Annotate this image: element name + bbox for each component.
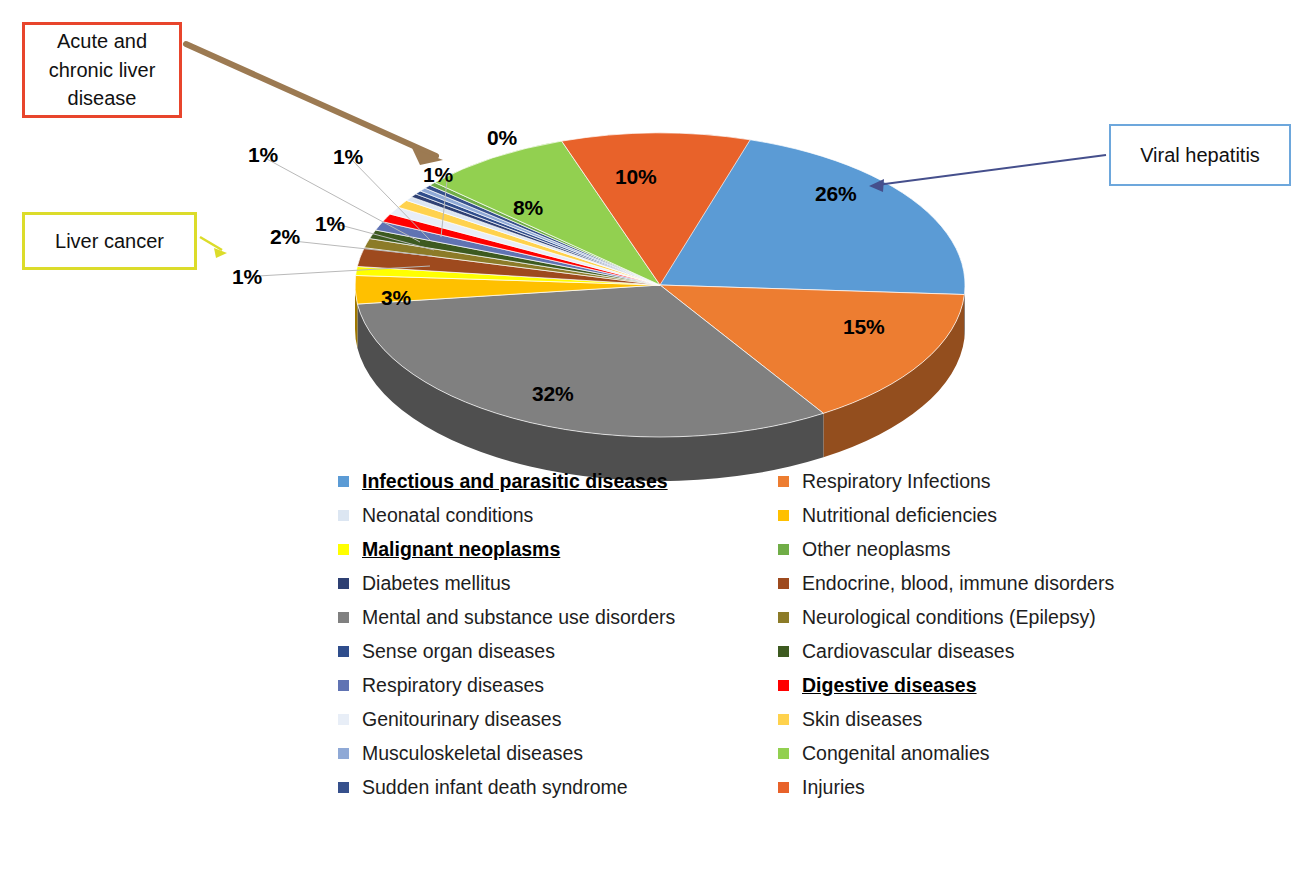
legend-swatch-icon bbox=[338, 578, 349, 589]
legend-item[interactable]: Sudden infant death syndrome bbox=[338, 770, 778, 804]
pie-slice-percentage: 1% bbox=[315, 212, 345, 236]
callout-viral-hepatitis[interactable]: Viral hepatitis bbox=[1109, 124, 1291, 186]
legend-swatch-icon bbox=[778, 714, 789, 725]
legend-item-label: Sense organ diseases bbox=[362, 640, 555, 663]
legend-item[interactable]: Cardiovascular diseases bbox=[778, 634, 1198, 668]
legend-item[interactable]: Endocrine, blood, immune disorders bbox=[778, 566, 1198, 600]
legend-item[interactable]: Congenital anomalies bbox=[778, 736, 1198, 770]
callout-viral-hepatitis-label: Viral hepatitis bbox=[1140, 141, 1260, 169]
legend-item[interactable]: Skin diseases bbox=[778, 702, 1198, 736]
callout-acute-chronic-liver-disease[interactable]: Acute and chronic liver disease bbox=[22, 22, 182, 118]
arrow-liver-cancer bbox=[200, 237, 227, 258]
legend-swatch-icon bbox=[338, 476, 349, 487]
callout-acute-label: Acute and chronic liver disease bbox=[31, 27, 173, 112]
legend-item-label: Respiratory diseases bbox=[362, 674, 544, 697]
pie-slice-percentage: 2% bbox=[270, 225, 300, 249]
legend-swatch-icon bbox=[338, 612, 349, 623]
legend-item[interactable]: Nutritional deficiencies bbox=[778, 498, 1198, 532]
legend-swatch-icon bbox=[338, 680, 349, 691]
legend-column-left: Infectious and parasitic diseasesNeonata… bbox=[338, 464, 778, 804]
pie-slice-percentage: 1% bbox=[333, 145, 363, 169]
legend-swatch-icon bbox=[778, 510, 789, 521]
pie-slice-percentage: 10% bbox=[615, 165, 656, 189]
legend-item-label: Injuries bbox=[802, 776, 865, 799]
legend-item-label: Infectious and parasitic diseases bbox=[362, 470, 668, 493]
legend-item-label: Musculoskeletal diseases bbox=[362, 742, 583, 765]
pie-slice-percentage: 15% bbox=[843, 315, 884, 339]
legend-item-label: Sudden infant death syndrome bbox=[362, 776, 628, 799]
legend-item-label: Neonatal conditions bbox=[362, 504, 533, 527]
pie-slice-percentage: 8% bbox=[513, 196, 543, 220]
legend-item-label: Cardiovascular diseases bbox=[802, 640, 1014, 663]
pie-slice-percentage: 1% bbox=[423, 163, 453, 187]
legend-swatch-icon bbox=[338, 646, 349, 657]
pie-slice-percentage: 1% bbox=[232, 265, 262, 289]
legend-item[interactable]: Respiratory diseases bbox=[338, 668, 778, 702]
legend-item-label: Mental and substance use disorders bbox=[362, 606, 675, 629]
callout-liver-cancer-label: Liver cancer bbox=[55, 227, 164, 255]
legend-item[interactable]: Sense organ diseases bbox=[338, 634, 778, 668]
legend-item-label: Respiratory Infections bbox=[802, 470, 991, 493]
arrow-acute-liver-disease bbox=[186, 44, 443, 165]
legend-swatch-icon bbox=[778, 612, 789, 623]
legend-item[interactable]: Respiratory Infections bbox=[778, 464, 1198, 498]
chart-canvas: Infectious and parasitic diseasesRespira… bbox=[0, 0, 1312, 881]
legend-item[interactable]: Digestive diseases bbox=[778, 668, 1198, 702]
legend-item[interactable]: Diabetes mellitus bbox=[338, 566, 778, 600]
legend-swatch-icon bbox=[338, 714, 349, 725]
legend-swatch-icon bbox=[778, 544, 789, 555]
legend-item[interactable]: Musculoskeletal diseases bbox=[338, 736, 778, 770]
legend-item-label: Other neoplasms bbox=[802, 538, 951, 561]
legend-swatch-icon bbox=[338, 510, 349, 521]
legend-swatch-icon bbox=[338, 782, 349, 793]
legend-item-label: Nutritional deficiencies bbox=[802, 504, 997, 527]
legend-swatch-icon bbox=[778, 680, 789, 691]
pie-slice-percentage: 0% bbox=[487, 126, 517, 150]
pie-slice-percentage: 26% bbox=[815, 182, 856, 206]
legend-item[interactable]: Injuries bbox=[778, 770, 1198, 804]
pie-slice-percentage: 1% bbox=[248, 143, 278, 167]
pie-slice-percentage: 3% bbox=[381, 286, 411, 310]
legend-item-label: Congenital anomalies bbox=[802, 742, 990, 765]
legend-swatch-icon bbox=[778, 748, 789, 759]
legend-item-label: Malignant neoplasms bbox=[362, 538, 560, 561]
legend-item-label: Endocrine, blood, immune disorders bbox=[802, 572, 1114, 595]
legend-item[interactable]: Neurological conditions (Epilepsy) bbox=[778, 600, 1198, 634]
legend-swatch-icon bbox=[338, 748, 349, 759]
arrow-viral-hepatitis bbox=[869, 155, 1106, 192]
legend-item[interactable]: Genitourinary diseases bbox=[338, 702, 778, 736]
legend-item-label: Neurological conditions (Epilepsy) bbox=[802, 606, 1096, 629]
legend-swatch-icon bbox=[338, 544, 349, 555]
legend-item[interactable]: Neonatal conditions bbox=[338, 498, 778, 532]
legend-item-label: Genitourinary diseases bbox=[362, 708, 561, 731]
legend-item-label: Digestive diseases bbox=[802, 674, 977, 697]
legend-item-label: Diabetes mellitus bbox=[362, 572, 510, 595]
legend-column-right: Respiratory InfectionsNutritional defici… bbox=[778, 464, 1198, 804]
legend-swatch-icon bbox=[778, 782, 789, 793]
pie-slice-percentage: 32% bbox=[532, 382, 573, 406]
callout-liver-cancer[interactable]: Liver cancer bbox=[22, 212, 197, 270]
legend-item[interactable]: Mental and substance use disorders bbox=[338, 600, 778, 634]
legend-swatch-icon bbox=[778, 646, 789, 657]
legend-item[interactable]: Other neoplasms bbox=[778, 532, 1198, 566]
legend-swatch-icon bbox=[778, 578, 789, 589]
legend-item[interactable]: Malignant neoplasms bbox=[338, 532, 778, 566]
legend-item[interactable]: Infectious and parasitic diseases bbox=[338, 464, 778, 498]
legend-item-label: Skin diseases bbox=[802, 708, 922, 731]
legend-swatch-icon bbox=[778, 476, 789, 487]
